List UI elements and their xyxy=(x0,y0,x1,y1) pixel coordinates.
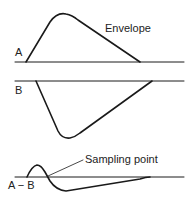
envelope-a-curve xyxy=(26,14,140,62)
diagram-canvas xyxy=(0,0,194,203)
sampling-point-label: Sampling point xyxy=(85,154,158,165)
envelope-label: Envelope xyxy=(105,23,151,34)
difference-curve xyxy=(27,165,150,191)
envelope-b-curve xyxy=(36,81,152,138)
label-b: B xyxy=(15,85,22,96)
label-a-minus-b: A − B xyxy=(8,180,35,191)
sampling-point-leader xyxy=(48,160,83,176)
label-a: A xyxy=(15,47,22,58)
